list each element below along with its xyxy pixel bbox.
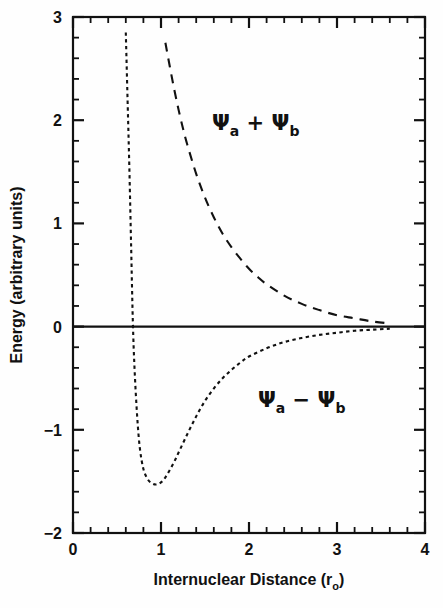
y-axis-title: Energy (arbitrary units) [8,187,25,364]
x-tick-label: 3 [333,541,342,558]
x-tick-label: 0 [69,541,78,558]
figure-background [0,0,443,608]
y-tick-label: 2 [53,112,62,129]
x-tick-label: 2 [245,541,254,558]
annotation-antibonding: Ψa + Ψb [212,111,299,139]
annot2-sub-b: b [335,400,345,416]
y-tick-label: 1 [53,215,62,232]
energy-vs-internuclear-distance-plot: 01234 3210−1−2 Ψa + Ψb Ψa − Ψb Internucl… [0,0,443,608]
annot2-psi-a: Ψ [258,388,276,412]
y-tick-label: 0 [53,319,62,336]
annot-psi-a: Ψ [212,111,230,135]
x-tick-label: 4 [421,541,430,558]
annot-sub-a: a [230,123,239,139]
annot-sub-b: b [289,123,299,139]
annot2-psi-b: Ψ [318,388,336,412]
x-axis-title-main: Internuclear Distance (r [154,571,333,588]
x-axis-title-tail: ) [339,571,344,588]
y-tick-label: −1 [44,422,62,439]
annot-operator: + [247,111,265,135]
y-tick-label: −2 [44,525,62,542]
annot2-sub-a: a [276,400,285,416]
svg-text:Ψa − Ψb: Ψa − Ψb [258,388,345,416]
svg-text:Ψa + Ψb: Ψa + Ψb [212,111,299,139]
annot2-operator: − [293,388,311,412]
chart-figure: 01234 3210−1−2 Ψa + Ψb Ψa − Ψb Internucl… [0,0,443,608]
y-tick-label: 3 [53,9,62,26]
annotation-bonding: Ψa − Ψb [258,388,345,416]
annot-psi-b: Ψ [272,111,290,135]
x-tick-label: 1 [157,541,166,558]
y-axis-title-text: Energy (arbitrary units) [8,187,25,364]
